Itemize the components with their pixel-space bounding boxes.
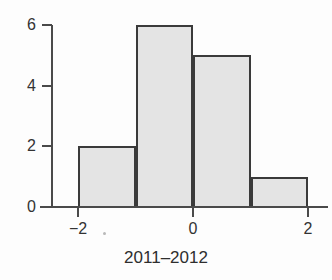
x-axis-line <box>40 206 328 208</box>
histogram-bar <box>193 55 251 208</box>
y-tick-label: 0 <box>12 199 36 215</box>
histogram-bar <box>136 25 194 208</box>
x-axis-title: 2011–2012 <box>0 248 332 268</box>
y-tick-mark <box>42 145 52 147</box>
x-tick-label: 2 <box>288 220 328 238</box>
plot-area: 6420 −202 2011–2012 <box>0 0 332 280</box>
y-tick-mark <box>42 206 52 208</box>
y-axis-line <box>51 25 53 208</box>
x-tick-label: −2 <box>58 220 98 238</box>
scan-speck <box>103 232 106 235</box>
x-tick-mark <box>192 207 194 217</box>
x-tick-mark <box>77 207 79 217</box>
y-tick-label: 2 <box>12 138 36 154</box>
x-tick-label: 0 <box>173 220 213 238</box>
y-tick-mark <box>42 85 52 87</box>
y-tick-label: 6 <box>12 17 36 33</box>
histogram-bar <box>251 177 309 208</box>
y-tick-mark <box>42 24 52 26</box>
histogram-chart: 6420 −202 2011–2012 <box>0 0 332 280</box>
x-tick-mark <box>307 207 309 217</box>
y-tick-label: 4 <box>12 78 36 94</box>
histogram-bar <box>78 146 136 208</box>
